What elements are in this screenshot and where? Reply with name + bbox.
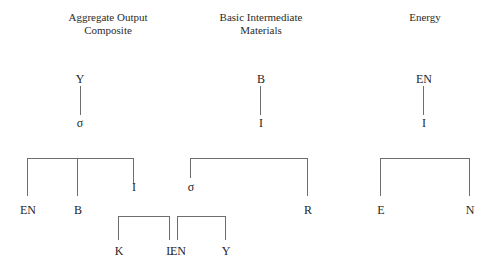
node-b-root: B bbox=[257, 73, 265, 85]
node-en-root: EN bbox=[416, 73, 432, 85]
node-n-energy: N bbox=[466, 204, 475, 216]
connector-lines bbox=[0, 0, 497, 270]
diagram-canvas: Aggregate Output Composite Basic Interme… bbox=[0, 0, 497, 270]
node-b-aggregate: B bbox=[74, 204, 82, 216]
node-r-basic: R bbox=[304, 204, 312, 216]
node-k: K bbox=[115, 245, 124, 257]
node-i-aggregate: I bbox=[132, 181, 136, 193]
node-en-sub: EN bbox=[170, 245, 186, 257]
column-title-energy: Energy bbox=[390, 11, 460, 24]
node-sigma-basic: σ bbox=[188, 181, 194, 193]
node-en-aggregate: EN bbox=[20, 204, 36, 216]
node-e-energy: E bbox=[377, 204, 384, 216]
column-title-aggregate-output-composite: Aggregate Output Composite bbox=[53, 11, 163, 37]
node-y-sub: Y bbox=[222, 245, 231, 257]
node-y-root: Y bbox=[76, 73, 85, 85]
column-title-basic-intermediate-materials: Basic Intermediate Materials bbox=[206, 11, 316, 37]
node-sigma-child: σ bbox=[77, 117, 83, 129]
node-i-child: I bbox=[259, 117, 263, 129]
node-i-child-energy: I bbox=[422, 117, 426, 129]
